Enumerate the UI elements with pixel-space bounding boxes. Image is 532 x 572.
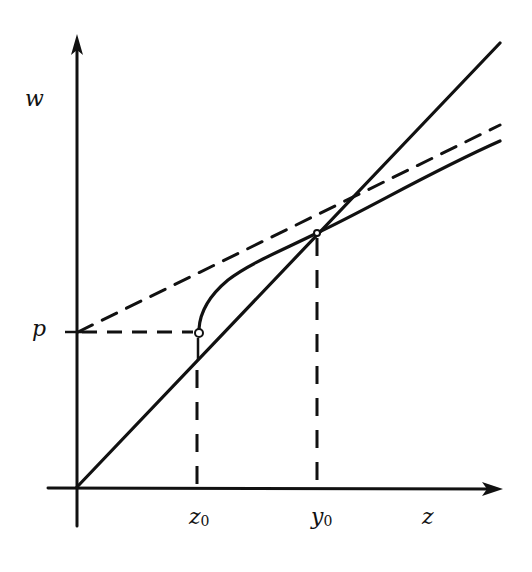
tangent-line	[78, 125, 500, 332]
function-curve	[199, 141, 500, 329]
diagram-canvas: w p z0 y0 z	[0, 0, 532, 572]
w-axis-label: w	[25, 86, 44, 111]
z-axis-label: z	[421, 504, 434, 529]
plot-svg: w p z0 y0 z	[0, 0, 532, 572]
open-circle-z0-marker	[195, 329, 203, 337]
y0-label: y0	[310, 504, 332, 529]
x-axis	[48, 488, 495, 489]
fixed-point-y0-marker	[314, 230, 320, 236]
z0-label: z0	[188, 504, 210, 529]
p-label: p	[32, 316, 46, 341]
identity-line	[77, 43, 500, 487]
